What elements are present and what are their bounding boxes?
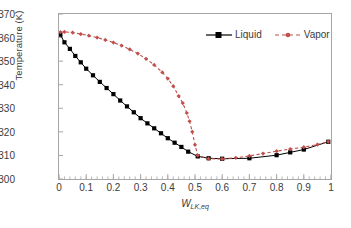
- data-point-vapor: [185, 111, 189, 115]
- data-point-liquid: [159, 131, 163, 135]
- data-point-liquid: [73, 54, 77, 58]
- data-point-liquid: [139, 116, 143, 120]
- y-axis-tick-label: 320: [0, 126, 15, 137]
- data-point-vapor: [274, 149, 278, 153]
- data-point-vapor: [119, 43, 123, 47]
- y-axis-tick-label: 310: [0, 150, 15, 161]
- data-point-liquid: [275, 153, 279, 157]
- x-axis-title-subscript: LK,eq: [191, 203, 209, 210]
- data-point-liquid: [79, 60, 83, 64]
- data-point-liquid: [91, 73, 95, 77]
- data-point-vapor: [87, 34, 91, 38]
- data-point-vapor: [193, 143, 197, 147]
- data-point-vapor: [144, 57, 148, 61]
- y-axis-tick-label: 360: [0, 32, 15, 43]
- data-point-liquid: [145, 121, 149, 125]
- series-line-liquid: [60, 35, 328, 159]
- chart-figure: Temperature (K) 300310320330340350360370…: [0, 0, 351, 228]
- y-axis-tick-label: 330: [0, 103, 15, 114]
- x-axis-title: WLK,eq: [58, 198, 332, 210]
- data-point-vapor: [187, 119, 191, 123]
- data-point-vapor: [261, 151, 265, 155]
- x-axis-major-ticks: [59, 174, 331, 179]
- data-point-liquid: [84, 67, 88, 71]
- data-point-liquid: [125, 104, 129, 108]
- data-point-liquid: [68, 47, 72, 51]
- data-point-liquid: [166, 136, 170, 140]
- x-axis-tick-label: 0.8: [262, 182, 292, 193]
- legend-item-vapor[interactable]: Vapor: [275, 30, 330, 40]
- data-point-vapor: [128, 47, 132, 51]
- data-point-vapor: [136, 51, 140, 55]
- y-axis-tick-label: 340: [0, 79, 15, 90]
- x-axis-tick-label: 0.9: [289, 182, 319, 193]
- x-axis-tick-label: 0.1: [71, 182, 101, 193]
- y-axis-tick-label: 370: [0, 9, 15, 20]
- legend-item-liquid[interactable]: Liquid: [206, 30, 262, 40]
- data-point-liquid: [111, 92, 115, 96]
- data-point-vapor: [62, 30, 66, 34]
- data-point-liquid: [179, 145, 183, 149]
- data-point-liquid: [105, 86, 109, 90]
- x-axis-tick-label: 0.5: [180, 182, 210, 193]
- x-axis-title-main: W: [181, 198, 190, 209]
- data-point-liquid: [98, 80, 102, 84]
- x-axis-tick-label: 0.2: [98, 182, 128, 193]
- legend-swatch-vapor: [275, 30, 301, 40]
- data-point-vapor: [103, 38, 107, 42]
- data-point-vapor: [111, 40, 115, 44]
- data-point-vapor: [234, 156, 238, 160]
- data-point-vapor: [171, 84, 175, 88]
- data-point-liquid: [173, 141, 177, 145]
- data-point-liquid: [118, 98, 122, 102]
- x-axis-tick-label: 0: [44, 182, 74, 193]
- data-point-liquid: [152, 126, 156, 130]
- data-point-vapor: [79, 32, 83, 36]
- x-axis-tick-label: 0.7: [234, 182, 264, 193]
- y-axis-tick-label: 300: [0, 174, 15, 185]
- legend-swatch-liquid: [206, 30, 232, 40]
- data-point-vapor: [95, 35, 99, 39]
- x-axis-tick-label: 0.3: [126, 182, 156, 193]
- chart-legend: Liquid Vapor: [206, 30, 330, 40]
- data-point-liquid: [132, 110, 136, 114]
- legend-label-liquid: Liquid: [235, 30, 262, 40]
- data-point-liquid: [186, 150, 190, 154]
- data-point-liquid: [62, 40, 66, 44]
- data-point-vapor: [70, 30, 74, 34]
- data-series-layer: [59, 30, 330, 161]
- data-point-vapor: [190, 130, 194, 134]
- x-axis-tick-label: 0.4: [153, 182, 183, 193]
- y-axis-tick-label: 350: [0, 56, 15, 67]
- x-axis-tick-label: 1: [316, 182, 346, 193]
- series-line-vapor: [60, 32, 328, 159]
- legend-label-vapor: Vapor: [304, 30, 330, 40]
- x-axis-tick-label: 0.6: [207, 182, 237, 193]
